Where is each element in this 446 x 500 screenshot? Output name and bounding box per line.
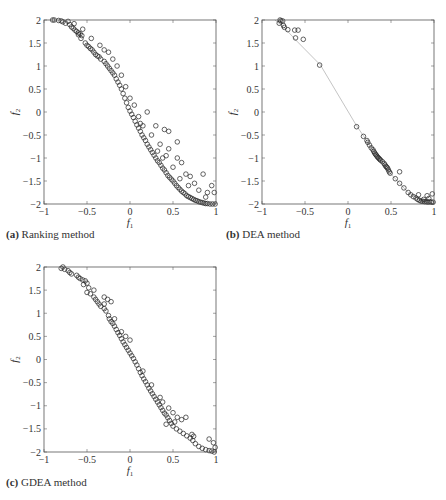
x-tick-label: −0.5 [296,206,314,217]
y-tick-label: −0.5 [241,130,259,141]
data-point [184,172,189,177]
data-point [89,36,94,41]
y-tick-label: 1 [36,308,41,319]
data-point [149,133,154,138]
caption-tag: (a) [6,228,19,240]
data-point [98,43,103,48]
x-tick-label: 1 [432,206,437,217]
data-point [188,174,193,179]
caption-tag: (c) [6,476,18,488]
y-tick-label: 2 [36,15,41,26]
data-point [397,170,402,175]
caption-b: (b) DEA method [226,228,300,240]
y-tick-label: −1 [30,400,41,411]
y-axis-label: f2 [8,108,22,115]
x-tick-label: −0.5 [78,206,96,217]
axes: −1−0.500.51−2−1.5−1−0.500.511.52f1f2 [226,15,437,231]
data-point [166,147,171,152]
data-point [102,302,107,307]
data-point [296,28,301,33]
data-point [171,165,176,170]
data-point [354,124,359,129]
data-point [317,63,322,68]
panel-b: −1−0.500.51−2−1.5−1−0.500.511.52f1f2 (b)… [225,0,446,250]
y-tick-label: −1 [30,153,41,164]
caption-c: (c) GDEA method [6,476,87,488]
data-point [209,183,214,188]
y-tick-label: 0.5 [29,331,42,342]
data-point [171,410,176,415]
data-points [59,265,218,455]
data-point [160,156,165,161]
y-tick-label: −1.5 [241,176,259,187]
data-point [178,176,183,181]
y-tick-label: 1.5 [29,38,42,49]
y-tick-label: −2 [30,447,41,458]
data-point [80,27,85,32]
data-point [175,156,180,161]
y-tick-label: 2 [36,262,41,273]
data-point [162,127,167,132]
data-point [184,415,189,420]
data-point [416,193,421,198]
data-point [132,103,137,108]
data-point [175,140,180,145]
data-point [136,114,141,119]
data-point [112,317,117,322]
y-tick-label: 1.5 [29,285,42,296]
data-points [277,18,436,205]
data-point [154,124,159,129]
data-point [119,87,124,92]
front-line [275,20,434,204]
data-point [92,288,97,293]
y-axis-label: f2 [8,356,22,363]
y-tick-label: 0.5 [29,84,42,95]
y-tick-label: −0.5 [23,130,41,141]
data-point [123,96,128,101]
y-tick-label: 1.5 [247,38,260,49]
data-point [179,417,184,422]
data-point [119,73,124,78]
x-axis-label: f1 [127,464,134,478]
data-point [203,195,208,200]
data-point [192,181,197,186]
x-tick-label: 1 [214,206,219,217]
data-point [164,422,169,427]
y-tick-label: 0.5 [247,84,260,95]
caption-tag: (b) [226,228,239,240]
x-tick-label: −0.5 [78,454,96,465]
data-point [124,101,129,106]
data-point [213,445,218,450]
caption-text: GDEA method [18,476,86,488]
x-tick-label: 1 [214,454,219,465]
data-point [207,437,212,442]
data-point [123,334,128,339]
data-point [115,64,120,69]
caption-text: DEA method [239,228,300,240]
data-point [179,160,184,165]
data-point [166,406,171,411]
data-point [205,190,210,195]
data-point [186,183,191,188]
y-tick-label: −1 [248,153,259,164]
data-point [211,440,216,445]
data-point [158,142,163,147]
y-tick-label: 1 [36,61,41,72]
data-point [123,84,128,89]
data-point [128,338,133,343]
y-tick-label: −0.5 [23,377,41,388]
data-point [109,299,114,304]
data-point [86,286,91,291]
data-point [160,400,165,405]
axes: −1−0.500.51−2−1.5−1−0.500.511.52f1f2 [8,262,219,479]
data-point [149,383,154,388]
scatter-chart-dea: −1−0.500.51−2−1.5−1−0.500.511.52f1f2 [225,0,446,230]
data-point [102,48,107,53]
caption-text: Ranking method [19,228,95,240]
y-axis-label: f2 [226,108,240,115]
data-point [111,57,116,62]
y-tick-label: 0 [36,107,41,118]
panel-a: −1−0.500.51−2−1.5−1−0.500.511.52f1f2 (a)… [0,0,225,250]
x-tick-label: 0.5 [385,206,398,217]
y-tick-label: 0 [254,107,259,118]
